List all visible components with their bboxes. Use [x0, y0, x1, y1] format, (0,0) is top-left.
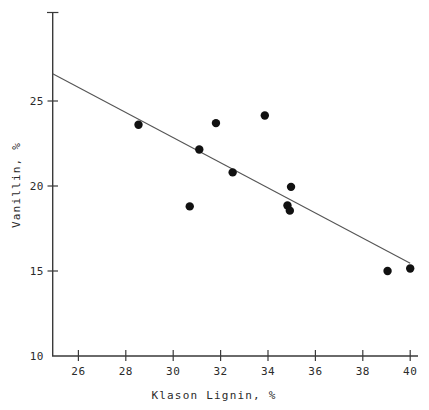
- y-axis-title: Vanillin, %: [10, 142, 23, 228]
- data-point: [287, 183, 295, 191]
- x-tick-label-30: 30: [166, 365, 180, 378]
- x-tick-label-32: 32: [213, 365, 227, 378]
- data-point: [186, 202, 194, 210]
- data-point: [212, 119, 220, 127]
- data-point: [406, 264, 414, 272]
- data-point: [134, 121, 142, 129]
- data-point-group: [134, 111, 414, 275]
- data-point: [383, 267, 391, 275]
- scatter-plot-figure: 25 20 15 10 26 28 30 32 34 36 38 40 Klas…: [0, 0, 429, 410]
- data-point: [261, 111, 269, 119]
- x-tick-label-26: 26: [71, 365, 85, 378]
- data-point: [228, 168, 236, 176]
- axis-lines: [53, 12, 418, 356]
- y-tick-label-20: 20: [30, 180, 44, 193]
- data-point: [286, 206, 294, 214]
- x-tick-label-38: 38: [356, 365, 370, 378]
- data-point: [195, 145, 203, 153]
- x-tick-label-40: 40: [403, 365, 417, 378]
- x-axis-title: Klason Lignin, %: [151, 389, 276, 402]
- x-tick-label-36: 36: [308, 365, 322, 378]
- x-tick-label-28: 28: [119, 365, 133, 378]
- y-tick-label-10: 10: [30, 350, 44, 363]
- y-tick-label-25: 25: [30, 95, 44, 108]
- y-tick-label-15: 15: [30, 265, 44, 278]
- plot-canvas: 25 20 15 10 26 28 30 32 34 36 38 40 Klas…: [0, 0, 429, 410]
- x-tick-label-34: 34: [261, 365, 275, 378]
